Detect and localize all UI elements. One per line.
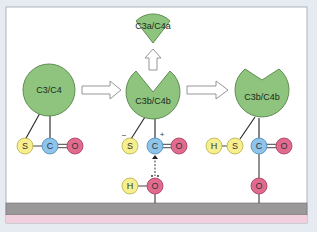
c3b-c4b-bound-label: C3b/C4b <box>244 92 280 102</box>
c3a-c4a-label: C3a/C4a <box>135 21 171 31</box>
svg-text:O: O <box>280 141 287 151</box>
svg-text:C: C <box>256 141 263 151</box>
c3b-c4b-label: C3b/C4b <box>135 96 171 106</box>
svg-text:−: − <box>122 131 127 140</box>
svg-text:S: S <box>22 141 28 151</box>
svg-text:S: S <box>127 141 133 151</box>
svg-text:H: H <box>211 141 218 151</box>
diagram-stage: C3/C4 S C O C3a/C4a C3b/C4b − + S C O <box>0 0 317 232</box>
svg-text:S: S <box>232 141 238 151</box>
svg-text:C: C <box>152 141 159 151</box>
svg-text:O: O <box>151 181 158 191</box>
membrane-surface <box>6 203 307 215</box>
svg-text:H: H <box>127 181 134 191</box>
membrane-lower <box>6 215 307 223</box>
svg-text:O: O <box>175 141 182 151</box>
svg-text:C: C <box>47 141 54 151</box>
svg-text:+: + <box>160 130 165 139</box>
complement-diagram: C3/C4 S C O C3a/C4a C3b/C4b − + S C O <box>0 0 317 232</box>
c3-c4-label: C3/C4 <box>36 85 62 95</box>
svg-text:O: O <box>71 141 78 151</box>
svg-text:O: O <box>255 181 262 191</box>
